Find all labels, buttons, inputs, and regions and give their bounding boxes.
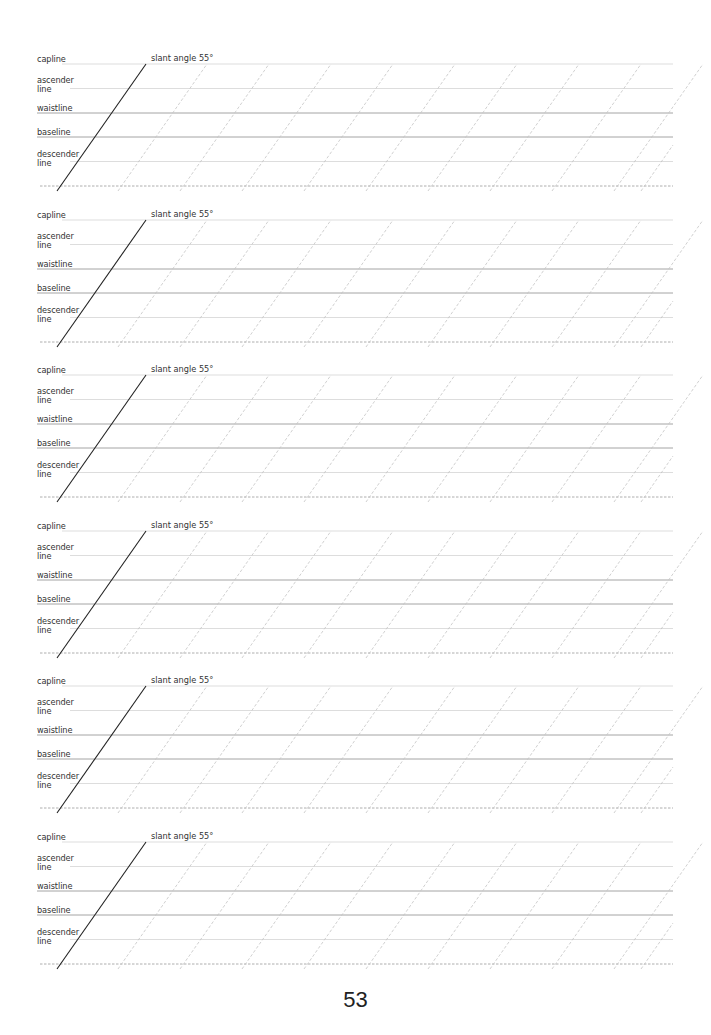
descender-line-label: descender line [37, 461, 71, 478]
slant-angle-label: slant angle 55° [151, 676, 213, 685]
baseline-label: baseline [37, 439, 71, 448]
descender-line-label: descender line [37, 928, 71, 945]
descender-line-label: descender line [37, 617, 71, 634]
ascender-line-label: ascender line [37, 232, 71, 249]
waistline-label: waistline [37, 726, 72, 735]
capline-label: capline [37, 55, 66, 64]
capline-label: capline [37, 366, 66, 375]
ascender-line-label: ascender line [37, 543, 71, 560]
slant-angle-label: slant angle 55° [151, 365, 213, 374]
page-number: 53 [0, 987, 711, 1013]
guide-block-3: caplineascender linewaistlinebaselinedes… [0, 363, 711, 513]
capline-label: capline [37, 677, 66, 686]
baseline-label: baseline [37, 906, 71, 915]
guide-block-5: caplineascender linewaistlinebaselinedes… [0, 674, 711, 824]
baseline-label: baseline [37, 284, 71, 293]
descender-line-label: descender line [37, 150, 71, 167]
baseline-label: baseline [37, 595, 71, 604]
practice-sheet: caplineascender linewaistlinebaselinedes… [0, 0, 711, 1035]
guide-block-4: caplineascender linewaistlinebaselinedes… [0, 519, 711, 669]
waistline-label: waistline [37, 260, 72, 269]
waistline-label: waistline [37, 104, 72, 113]
guide-block-1: caplineascender linewaistlinebaselinedes… [0, 52, 711, 202]
slant-angle-label: slant angle 55° [151, 521, 213, 530]
descender-line-label: descender line [37, 306, 71, 323]
guide-block-2: caplineascender linewaistlinebaselinedes… [0, 208, 711, 358]
ascender-line-label: ascender line [37, 854, 71, 871]
capline-label: capline [37, 833, 66, 842]
slant-angle-label: slant angle 55° [151, 832, 213, 841]
ascender-line-label: ascender line [37, 698, 71, 715]
slant-angle-label: slant angle 55° [151, 54, 213, 63]
slant-angle-label: slant angle 55° [151, 210, 213, 219]
descender-line-label: descender line [37, 772, 71, 789]
waistline-label: waistline [37, 571, 72, 580]
ascender-line-label: ascender line [37, 76, 71, 93]
capline-label: capline [37, 211, 66, 220]
waistline-label: waistline [37, 415, 72, 424]
guide-block-6: caplineascender linewaistlinebaselinedes… [0, 830, 711, 980]
capline-label: capline [37, 522, 66, 531]
baseline-label: baseline [37, 128, 71, 137]
ascender-line-label: ascender line [37, 387, 71, 404]
baseline-label: baseline [37, 750, 71, 759]
waistline-label: waistline [37, 882, 72, 891]
